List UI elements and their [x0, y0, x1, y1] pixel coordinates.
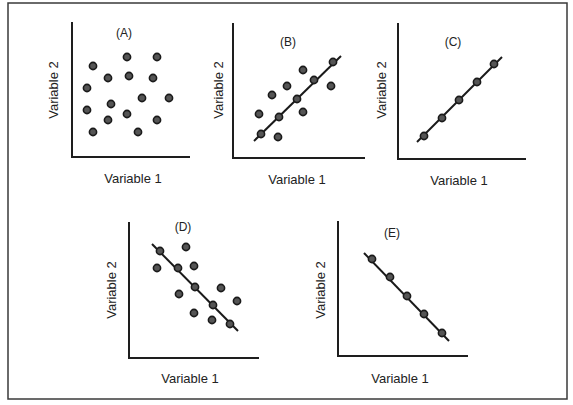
data-point: [153, 116, 160, 123]
data-point: [226, 320, 233, 327]
data-point: [438, 329, 445, 336]
data-point: [293, 95, 300, 102]
data-point: [455, 96, 462, 103]
data-point: [208, 316, 215, 323]
panel-label: (B): [280, 35, 296, 49]
data-point: [274, 133, 281, 140]
y-axis-label: Variable 2: [374, 61, 389, 119]
data-point: [191, 283, 198, 290]
data-point: [310, 76, 317, 83]
y-axis-label: Variable 2: [211, 61, 226, 119]
panel-label: (E): [384, 226, 400, 240]
data-point: [83, 84, 90, 91]
data-point: [299, 66, 306, 73]
data-point: [490, 60, 497, 67]
data-point: [123, 53, 130, 60]
data-point: [138, 94, 145, 101]
data-point: [123, 110, 130, 117]
data-point: [165, 94, 172, 101]
data-point: [89, 128, 96, 135]
data-point: [275, 113, 282, 120]
data-point: [107, 100, 114, 107]
data-point: [283, 82, 290, 89]
data-point: [153, 53, 160, 60]
data-point: [473, 78, 480, 85]
data-point: [104, 116, 111, 123]
data-point: [268, 91, 275, 98]
data-point: [174, 264, 181, 271]
data-point: [438, 114, 445, 121]
data-point: [255, 110, 262, 117]
data-point: [156, 247, 163, 254]
x-axis-label: Variable 1: [104, 171, 162, 186]
data-point: [153, 264, 160, 271]
data-point: [209, 301, 216, 308]
y-axis-label: Variable 2: [104, 261, 119, 319]
panel-label: (A): [116, 26, 132, 40]
panel-label: (D): [175, 220, 192, 234]
data-point: [190, 309, 197, 316]
data-point: [257, 130, 264, 137]
x-axis-label: Variable 1: [161, 371, 219, 386]
data-point: [134, 128, 141, 135]
x-axis-label: Variable 1: [371, 371, 429, 386]
data-point: [89, 62, 96, 69]
panel-label: (C): [445, 35, 462, 49]
x-axis-label: Variable 1: [430, 173, 488, 188]
data-point: [233, 297, 240, 304]
data-point: [190, 262, 197, 269]
correlation-figure: (A)Variable 1Variable 2(B)Variable 1Vari…: [0, 0, 573, 405]
data-point: [329, 58, 336, 65]
data-point: [403, 292, 410, 299]
data-point: [386, 273, 393, 280]
data-point: [182, 243, 189, 250]
data-point: [327, 82, 334, 89]
data-point: [125, 72, 132, 79]
y-axis-label: Variable 2: [313, 261, 328, 319]
data-point: [104, 74, 111, 81]
data-point: [217, 284, 224, 291]
x-axis-label: Variable 1: [268, 172, 326, 187]
data-point: [368, 255, 375, 262]
data-point: [420, 132, 427, 139]
data-point: [175, 290, 182, 297]
data-point: [83, 106, 90, 113]
y-axis-label: Variable 2: [46, 61, 61, 119]
data-point: [420, 310, 427, 317]
data-point: [299, 108, 306, 115]
data-point: [149, 74, 156, 81]
